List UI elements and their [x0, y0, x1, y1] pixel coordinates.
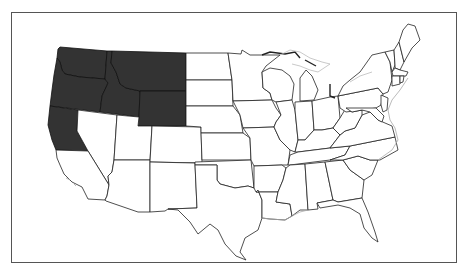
us-map [0, 0, 469, 280]
state-florida[interactable] [317, 198, 378, 242]
state-south-dakota[interactable] [186, 80, 233, 106]
state-wyoming[interactable] [138, 91, 186, 126]
state-kansas[interactable] [201, 133, 251, 160]
state-north-dakota[interactable] [186, 53, 232, 80]
state-connecticut[interactable] [392, 76, 400, 86]
state-montana[interactable] [111, 51, 186, 91]
state-rhode-island[interactable] [400, 76, 404, 83]
state-new-mexico[interactable] [150, 162, 197, 212]
state-colorado[interactable] [150, 126, 202, 163]
state-new-jersey[interactable] [381, 95, 388, 112]
state-michigan[interactable] [300, 70, 318, 101]
lake-michigan-shore [305, 60, 316, 66]
lake-erie-shore [330, 84, 335, 98]
